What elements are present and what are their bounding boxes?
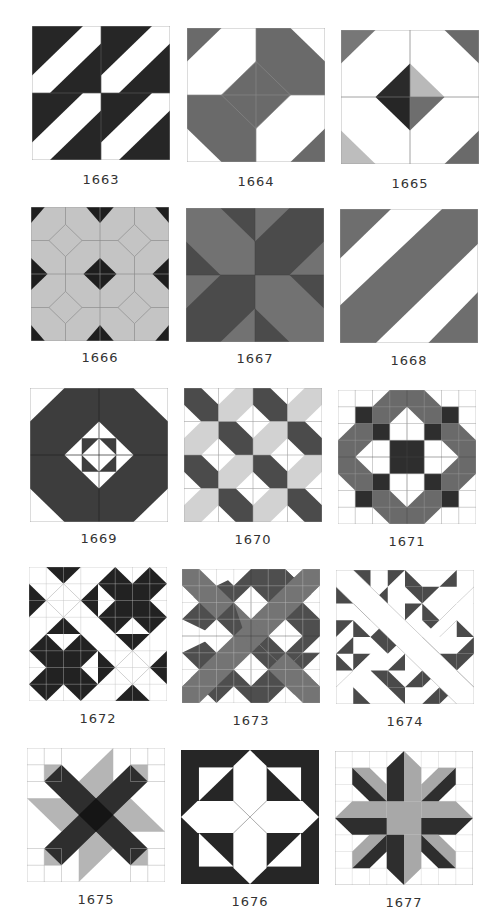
quilt-block-1667 [186,208,324,342]
quilt-block-1667-graphic [186,208,324,342]
quilt-block-1669 [30,388,168,522]
quilt-block-1672-graphic [29,567,167,701]
block-label-1676: 1676 [181,894,319,909]
quilt-block-1674-graphic [336,570,474,704]
quilt-block-1671-graphic [338,390,476,524]
block-label-1672: 1672 [29,711,167,726]
block-label-1671: 1671 [338,534,476,549]
quilt-block-1665 [341,30,479,164]
block-label-1675: 1675 [27,892,165,907]
quilt-block-1670 [184,388,322,522]
quilt-block-1676 [181,750,319,884]
quilt-block-1666 [31,207,169,341]
quilt-block-1677 [335,751,473,885]
block-label-1663: 1663 [32,172,170,187]
quilt-block-1663 [32,26,170,160]
block-label-1667: 1667 [186,351,324,366]
quilt-block-1672 [29,567,167,701]
quilt-block-1677-graphic [335,751,473,885]
quilt-block-1675-graphic [27,748,165,882]
quilt-block-1663-graphic [32,26,170,160]
quilt-block-1673 [182,569,320,703]
block-label-1674: 1674 [336,714,474,729]
block-label-1665: 1665 [341,176,479,191]
block-label-1673: 1673 [182,713,320,728]
block-label-1664: 1664 [187,174,325,189]
quilt-block-1673-graphic [182,569,320,703]
block-label-1669: 1669 [30,531,168,546]
quilt-block-1668 [340,209,478,343]
quilt-block-1671 [338,390,476,524]
quilt-block-1676-graphic [181,750,319,884]
block-label-1677: 1677 [335,895,473,910]
quilt-block-1664-graphic [187,28,325,162]
quilt-block-1670-graphic [184,388,322,522]
block-label-1668: 1668 [340,353,478,368]
quilt-block-1675 [27,748,165,882]
block-label-1670: 1670 [184,532,322,547]
quilt-block-1666-graphic [31,207,169,341]
quilt-block-1665-graphic [341,30,479,164]
quilt-block-1664 [187,28,325,162]
quilt-block-1674 [336,570,474,704]
quilt-block-1669-graphic [30,388,168,522]
quilt-block-1668-graphic [340,209,478,343]
block-label-1666: 1666 [31,350,169,365]
